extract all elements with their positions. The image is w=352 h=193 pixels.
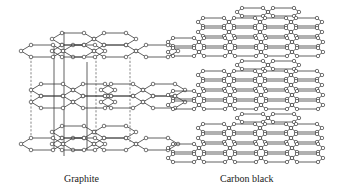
carbon-atom-icon (201, 79, 204, 82)
carbon-atom-icon (223, 107, 226, 110)
carbon-atom-icon (93, 148, 97, 152)
carbon-atom-icon (266, 10, 269, 13)
carbon-atom-icon (223, 152, 226, 155)
carbon-black-label: Carbon black (220, 173, 274, 184)
carbon-atom-icon (39, 106, 43, 110)
carbon-atom-icon (232, 122, 235, 125)
carbon-atom-icon (113, 100, 117, 104)
carbon-atom-icon (259, 146, 262, 149)
carbon-atom-icon (284, 26, 287, 29)
carbon-atom-icon (171, 107, 174, 110)
hexagon-chain (235, 112, 300, 123)
carbon-atom-icon (60, 148, 64, 152)
carbon-atom-icon (264, 36, 267, 39)
carbon-atom-icon (316, 160, 319, 163)
carbon-atom-icon (232, 69, 235, 72)
carbon-atom-icon (202, 54, 205, 57)
carbon-atom-icon (295, 89, 298, 92)
top-stack (166, 6, 324, 57)
carbon-atom-icon (192, 89, 195, 92)
carbon-atom-icon (315, 26, 318, 29)
carbon-atom-icon (171, 99, 174, 102)
carbon-atom-icon (254, 160, 257, 163)
carbon-atom-icon (290, 93, 293, 96)
carbon-atom-icon (102, 136, 106, 140)
carbon-atom-icon (233, 46, 236, 49)
carbon-atom-icon (29, 55, 33, 59)
hexagon-chain (50, 136, 180, 152)
carbon-atom-icon (192, 160, 195, 163)
carbon-atom-icon (82, 55, 86, 59)
carbon-atom-icon (171, 142, 174, 145)
carbon-atom-icon (93, 55, 97, 59)
carbon-atom-icon (227, 73, 230, 76)
carbon-atom-icon (201, 16, 204, 19)
carbon-atom-icon (202, 152, 205, 155)
carbon-atom-icon (316, 142, 319, 145)
carbon-atom-icon (263, 16, 266, 19)
carbon-atom-icon (197, 146, 200, 149)
carbon-atom-icon (259, 50, 262, 53)
carbon-atom-icon (295, 99, 298, 102)
carbon-atom-icon (131, 106, 135, 110)
carbon-atom-icon (233, 89, 236, 92)
carbon-atom-icon (232, 132, 235, 135)
carbon-atom-icon (61, 142, 65, 146)
carbon-atom-icon (201, 69, 204, 72)
carbon-atom-icon (202, 107, 205, 110)
carbon-atom-icon (71, 88, 75, 92)
carbon-atom-icon (259, 103, 262, 106)
hexagon-chain (235, 59, 300, 70)
carbon-atom-icon (19, 142, 23, 146)
carbon-atom-icon (192, 107, 195, 110)
carbon-atom-icon (197, 156, 200, 159)
carbon-atom-icon (39, 82, 43, 86)
carbon-atom-icon (92, 49, 96, 53)
carbon-atom-icon (294, 79, 297, 82)
carbon-atom-icon (284, 69, 287, 72)
carbon-atom-icon (263, 79, 266, 82)
carbon-atom-icon (99, 88, 103, 92)
carbon-atom-icon (258, 20, 261, 23)
carbon-atom-icon (202, 142, 205, 145)
carbon-atom-icon (316, 107, 319, 110)
carbon-atom-icon (124, 124, 128, 128)
carbon-atom-icon (233, 142, 236, 145)
carbon-atom-icon (235, 10, 238, 13)
carbon-atom-icon (202, 36, 205, 39)
carbon-atom-icon (264, 46, 267, 49)
carbon-atom-icon (258, 126, 261, 129)
carbon-atom-icon (233, 107, 236, 110)
carbon-atom-icon (223, 160, 226, 163)
carbon-atom-icon (320, 73, 323, 76)
carbon-atom-icon (285, 152, 288, 155)
carbon-atom-icon (253, 26, 256, 29)
carbon-atom-icon (222, 69, 225, 72)
carbon-atom-icon (51, 136, 55, 140)
carbon-atom-icon (295, 152, 298, 155)
carbon-atom-icon (197, 50, 200, 53)
carbon-atom-icon (263, 132, 266, 135)
hexagon-chain (235, 6, 300, 17)
carbon-atom-icon (196, 20, 199, 23)
carbon-atom-icon (222, 16, 225, 19)
carbon-atom-icon (134, 142, 138, 146)
carbon-atom-icon (228, 146, 231, 149)
carbon-atom-icon (284, 122, 287, 125)
carbon-atom-icon (60, 31, 64, 35)
carbon-atom-icon (92, 142, 96, 146)
carbon-atom-icon (61, 49, 65, 53)
carbon-atom-icon (254, 107, 257, 110)
carbon-atom-icon (151, 94, 155, 98)
carbon-atom-icon (197, 40, 200, 43)
carbon-atom-icon (51, 55, 55, 59)
carbon-atom-icon (259, 40, 262, 43)
carbon-atom-icon (51, 148, 55, 152)
carbon-atom-icon (320, 83, 323, 86)
carbon-atom-icon (202, 160, 205, 163)
carbon-atom-icon (166, 156, 169, 159)
carbon-atom-icon (294, 132, 297, 135)
carbon-atom-icon (227, 20, 230, 23)
carbon-atom-icon (102, 31, 106, 35)
carbon-atom-icon (261, 6, 264, 9)
